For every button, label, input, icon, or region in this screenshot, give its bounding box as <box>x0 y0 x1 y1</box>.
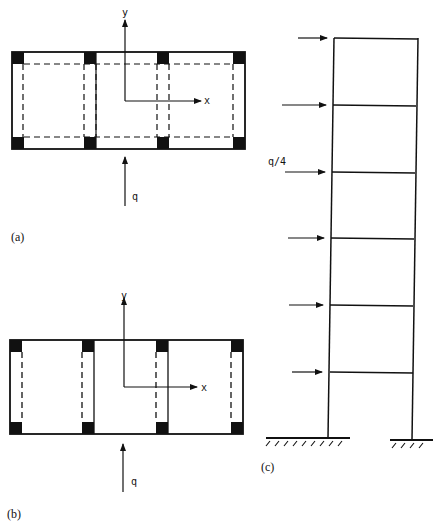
floor-beam <box>332 172 415 173</box>
column <box>12 137 24 149</box>
load-label: q <box>131 476 137 487</box>
column <box>157 52 169 64</box>
floor-beam <box>333 105 416 106</box>
panel-a: y x q (a) <box>11 7 245 244</box>
panel-label-a: (a) <box>11 230 24 244</box>
panel-label-c: (c) <box>261 460 274 474</box>
column <box>84 52 96 64</box>
panel-c: q/4 (c) <box>261 38 433 474</box>
x-axis-label: x <box>201 382 207 393</box>
column <box>233 52 245 64</box>
floor-beam <box>334 38 418 39</box>
y-axis-label: y <box>122 7 128 18</box>
panel-b: y x q (b) <box>7 290 243 521</box>
floor-beam <box>331 238 414 239</box>
column <box>156 422 168 434</box>
column <box>231 422 243 434</box>
column <box>84 137 96 149</box>
fixed-support-right <box>390 440 433 448</box>
x-axis-label: x <box>204 95 210 106</box>
column <box>156 340 168 352</box>
floor-beam <box>330 305 413 306</box>
fixed-support-left <box>266 438 350 446</box>
column <box>12 52 24 64</box>
column <box>231 340 243 352</box>
lateral-load-label: q/4 <box>268 156 286 167</box>
floor-beam <box>330 372 413 373</box>
column <box>157 137 169 149</box>
column <box>82 340 94 352</box>
column <box>10 422 22 434</box>
column <box>233 137 245 149</box>
column <box>82 422 94 434</box>
panel-label-b: (b) <box>7 507 21 521</box>
y-axis-label: y <box>121 290 127 301</box>
column <box>10 340 22 352</box>
load-label: q <box>132 191 138 202</box>
structural-diagram: y x q (a) y x q (b) <box>0 0 443 526</box>
